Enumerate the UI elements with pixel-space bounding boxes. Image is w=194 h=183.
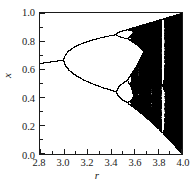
y-minor-tick bbox=[40, 139, 43, 140]
x-major-tick bbox=[111, 149, 112, 154]
y-major-tick bbox=[40, 125, 45, 126]
y-tick-label: 0.4 bbox=[3, 94, 35, 105]
y-tick-label: 1.0 bbox=[3, 8, 35, 19]
y-major-tick bbox=[40, 97, 45, 98]
y-minor-tick bbox=[40, 55, 43, 56]
x-major-tick bbox=[64, 149, 65, 154]
y-major-tick bbox=[40, 13, 45, 14]
plot-area bbox=[39, 12, 183, 155]
x-major-tick bbox=[40, 149, 41, 154]
x-major-tick bbox=[87, 149, 88, 154]
y-tick-label: 0.8 bbox=[3, 37, 35, 48]
y-minor-tick bbox=[40, 27, 43, 28]
y-major-tick bbox=[40, 69, 45, 70]
x-minor-tick bbox=[169, 151, 170, 154]
x-major-tick bbox=[134, 149, 135, 154]
x-minor-tick bbox=[146, 151, 147, 154]
x-minor-tick bbox=[75, 151, 76, 154]
y-tick-label: 0.6 bbox=[3, 65, 35, 76]
y-major-tick bbox=[40, 41, 45, 42]
x-major-tick bbox=[181, 149, 182, 154]
bifurcation-diagram-figure: x 1.0 0.8 0.6 0.4 0.2 0.0 2.8 3.0 3.2 3.… bbox=[0, 0, 194, 183]
y-minor-tick bbox=[40, 83, 43, 84]
x-tick-label: 4.0 bbox=[167, 158, 194, 169]
x-minor-tick bbox=[52, 151, 53, 154]
bifurcation-scatter-canvas bbox=[40, 13, 182, 154]
x-axis-title: r bbox=[0, 170, 194, 181]
x-minor-tick bbox=[122, 151, 123, 154]
x-major-tick bbox=[158, 149, 159, 154]
x-minor-tick bbox=[99, 151, 100, 154]
y-minor-tick bbox=[40, 111, 43, 112]
y-tick-label: 0.2 bbox=[3, 122, 35, 133]
